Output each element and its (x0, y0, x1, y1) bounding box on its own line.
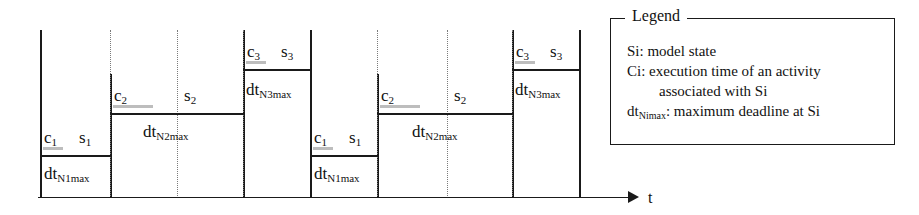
legend-line-si: Si: model state (627, 41, 886, 61)
label-c-b3: c3 (247, 43, 260, 60)
riser-start-b1 (40, 30, 42, 198)
label-c-sub-b3: 3 (255, 50, 261, 62)
label-s-sub-b1: 1 (86, 136, 92, 148)
label-s-b6: s3 (550, 43, 562, 60)
label-s-b2: s2 (184, 87, 196, 104)
label-c-b4: c1 (314, 129, 327, 146)
plateau-b6-level3 (512, 69, 580, 71)
legend-dt-prefix: dt (627, 103, 639, 119)
label-c-base-b4: c (314, 128, 322, 147)
label-dt-base-b5: dt (412, 122, 425, 141)
label-dt-base-b6: dt (515, 80, 528, 99)
legend-line-dt: dtNimax: maximum deadline at Si (627, 101, 886, 121)
label-dt-sub-b6: N3max (528, 88, 560, 100)
label-c-base-b6: c (516, 42, 524, 61)
label-dt-base-b1: dt (44, 164, 57, 183)
time-axis-line (38, 197, 630, 198)
label-s-base-b1: s (79, 128, 86, 147)
label-dt-b2: dtN2max (143, 123, 189, 140)
label-c-sub-b2: 2 (122, 94, 128, 106)
label-s-b4: s1 (349, 129, 361, 146)
label-s-b1: s1 (79, 129, 91, 146)
label-dt-sub-b1: N1max (57, 172, 89, 184)
label-dt-b4: dtN1max (314, 165, 360, 182)
figure-root: c1 s1 dtN1max c2 s2 dtN2max c3 s3 dtN3ma… (0, 0, 919, 215)
label-s-b3: s3 (281, 43, 293, 60)
label-c-base-b2: c (114, 86, 122, 105)
time-axis-label: t (648, 190, 652, 206)
plateau-b3-level3 (243, 69, 311, 71)
label-c-base-b5: c (381, 86, 389, 105)
timing-diagram: c1 s1 dtN1max c2 s2 dtN2max c3 s3 dtN3ma… (0, 0, 700, 215)
smudge-b5 (380, 105, 420, 108)
label-s-base-b5: s (454, 86, 461, 105)
label-dt-sub-b4: N1max (327, 172, 359, 184)
label-c-sub-b1: 1 (52, 136, 58, 148)
label-dt-b6: dtN3max (515, 81, 561, 98)
legend-line-ci-cont: associated with Si (627, 81, 886, 101)
plateau-b5-level2 (377, 113, 513, 115)
label-c-base-b3: c (247, 42, 255, 61)
legend-title: Legend (625, 8, 687, 24)
plateau-b4-level1 (310, 155, 378, 157)
label-dt-base-b2: dt (143, 122, 156, 141)
label-s-base-b2: s (184, 86, 191, 105)
label-dt-sub-b5: N2max (425, 130, 457, 142)
smudge-b2 (113, 105, 153, 108)
label-dt-base-b3: dt (246, 80, 259, 99)
label-s-b5: s2 (454, 87, 466, 104)
label-dt-base-b4: dt (314, 164, 327, 183)
label-s-sub-b4: 1 (356, 136, 362, 148)
label-s-sub-b5: 2 (461, 94, 467, 106)
label-s-sub-b3: 3 (288, 50, 294, 62)
legend-box: Legend Si: model state Ci: execution tim… (610, 18, 895, 145)
label-c-b2: c2 (114, 87, 127, 104)
label-c-b1: c1 (44, 129, 57, 146)
label-c-base-b1: c (44, 128, 52, 147)
plateau-b1-level1 (40, 155, 111, 157)
label-s-sub-b2: 2 (191, 94, 197, 106)
label-c-sub-b4: 1 (322, 136, 328, 148)
label-dt-b3: dtN3max (246, 81, 292, 98)
label-s-base-b3: s (281, 42, 288, 61)
label-s-base-b6: s (550, 42, 557, 61)
legend-dt-suffix: : maximum deadline at Si (666, 103, 820, 119)
label-c-sub-b5: 2 (389, 94, 395, 106)
label-dt-sub-b2: N2max (156, 130, 188, 142)
label-dt-sub-b3: N3max (259, 88, 291, 100)
riser-b3-b4 (310, 30, 312, 198)
plateau-b2-level2 (110, 113, 244, 115)
label-s-sub-b6: 3 (557, 50, 563, 62)
label-dt-b5: dtN2max (412, 123, 458, 140)
label-c-b6: c3 (516, 43, 529, 60)
riser-end-b6 (579, 30, 581, 198)
label-c-b5: c2 (381, 87, 394, 104)
label-dt-b1: dtN1max (44, 165, 90, 182)
legend-body: Si: model state Ci: execution time of an… (627, 41, 886, 121)
label-c-sub-b6: 3 (524, 50, 530, 62)
time-axis-arrowhead (628, 191, 639, 203)
legend-dt-sub: Nimax (639, 110, 666, 121)
legend-line-ci: Ci: execution time of an activity (627, 61, 886, 81)
label-s-base-b4: s (349, 128, 356, 147)
